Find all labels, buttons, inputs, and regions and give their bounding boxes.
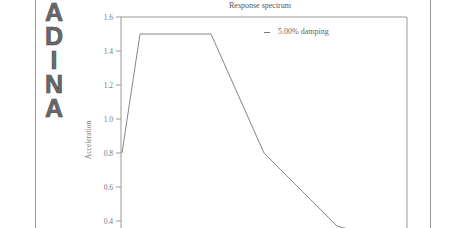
legend-label: 5.00% damping: [278, 27, 329, 36]
series-line: [122, 34, 350, 228]
y-tick-label: 1.2: [104, 81, 114, 90]
y-tick-label: 1.0: [104, 115, 114, 124]
chart-plot: 1.61.41.21.00.80.60.4 Acceleration: [0, 0, 451, 228]
legend: 5.00% damping: [264, 27, 329, 36]
y-tick-label: 1.6: [104, 13, 114, 22]
y-tick-label: 1.4: [104, 47, 114, 56]
y-tick-label: 0.8: [104, 149, 114, 158]
legend-swatch: [264, 32, 270, 33]
y-ticks: 1.61.41.21.00.80.60.4: [104, 13, 121, 226]
y-tick-label: 0.4: [104, 217, 114, 226]
y-axis-label: Acceleration: [84, 121, 93, 160]
y-tick-label: 0.6: [104, 183, 114, 192]
